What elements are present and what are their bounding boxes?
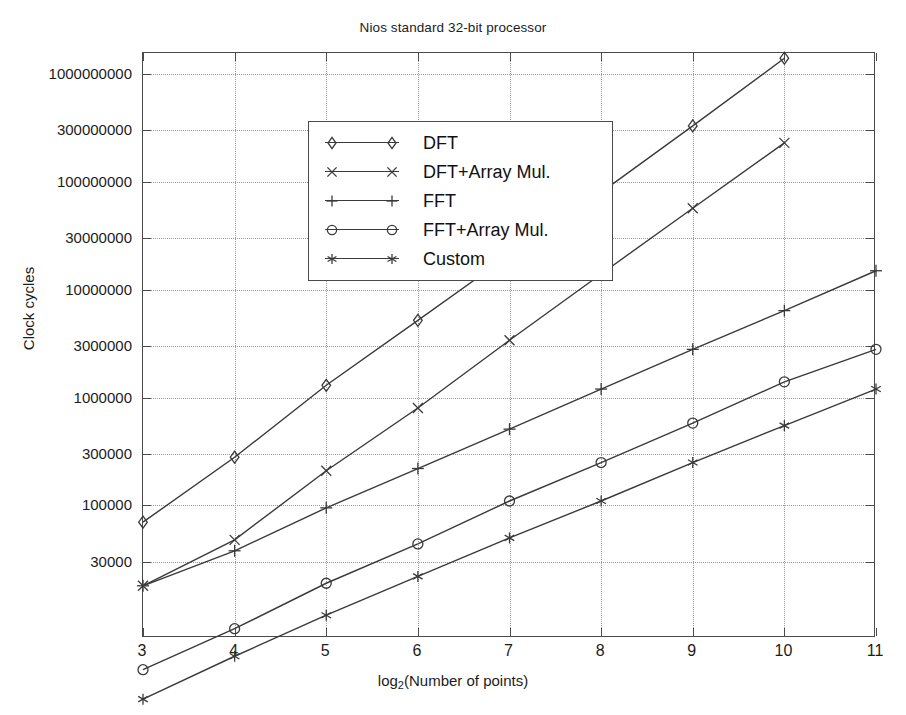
marker-plus	[504, 423, 516, 435]
x-axis-title-text: log2(Number of points)	[378, 672, 528, 689]
marker-asterisk	[596, 495, 606, 506]
plot-area: DFTDFT+Array Mul.FFTFFT+Array Mul.Custom	[142, 52, 875, 637]
legend-marker-x-icon	[323, 162, 401, 182]
legend-marker-diamond-icon	[323, 133, 401, 153]
y-axis-tick-label: 30000000	[0, 229, 132, 246]
legend-sample-line	[325, 229, 399, 230]
marker-asterisk	[688, 457, 698, 468]
legend-label: DFT+Array Mul.	[423, 162, 551, 182]
marker-plus	[595, 383, 607, 395]
legend-label: FFT	[423, 191, 456, 211]
legend-item-fft[interactable]: FFT	[309, 186, 612, 215]
marker-asterisk	[413, 571, 423, 582]
legend-item-fft-array-mul[interactable]: FFT+Array Mul.	[309, 215, 612, 244]
y-axis-tick-label: 1000000	[0, 388, 132, 405]
marker-plus	[412, 463, 424, 475]
legend-label: FFT+Array Mul.	[423, 220, 549, 240]
legend-box: DFTDFT+Array Mul.FFTFFT+Array Mul.Custom	[308, 121, 613, 281]
x-axis-tick-label: 5	[321, 642, 330, 660]
marker-x	[230, 535, 240, 545]
legend-marker-circle-icon	[323, 220, 401, 240]
marker-plus	[229, 545, 241, 557]
figure-canvas: Nios standard 32-bit processor Clock cyc…	[0, 0, 906, 715]
marker-plus	[778, 305, 790, 317]
legend-sample-line	[325, 171, 399, 172]
legend-item-dft[interactable]: DFT	[309, 128, 612, 157]
legend-label: DFT	[423, 133, 458, 153]
legend-sample-line	[325, 200, 399, 201]
y-axis-tick-label: 10000000	[0, 280, 132, 297]
legend-item-dft-array-mul[interactable]: DFT+Array Mul.	[309, 157, 612, 186]
y-axis-tick-label: 100000000	[0, 172, 132, 189]
series-line-fft-array-mul	[143, 349, 876, 669]
y-axis-tick-label: 300000000	[0, 121, 132, 138]
legend-marker-asterisk-icon	[323, 249, 401, 269]
legend-sample-line	[325, 142, 399, 143]
chart-title: Nios standard 32-bit processor	[0, 20, 906, 35]
x-axis-tick-label: 3	[138, 642, 147, 660]
marker-asterisk	[321, 610, 331, 621]
marker-asterisk	[780, 420, 790, 431]
marker-x	[413, 403, 423, 413]
x-axis-tick	[876, 628, 877, 636]
legend-label: Custom	[423, 249, 485, 269]
legend-item-custom[interactable]: Custom	[309, 244, 612, 273]
x-axis-title-subscript: 2	[398, 679, 404, 691]
legend-sample-line	[325, 258, 399, 259]
x-axis-tick-label: 10	[774, 642, 792, 660]
x-axis-tick-label: 7	[504, 642, 513, 660]
marker-x	[505, 335, 515, 345]
marker-x	[321, 466, 331, 476]
marker-x	[688, 203, 698, 213]
y-axis-tick-label: 30000	[0, 552, 132, 569]
x-axis-tick-top	[876, 53, 877, 61]
x-axis-tick-label: 11	[867, 642, 884, 660]
y-axis-tick-label: 1000000000	[0, 65, 132, 82]
x-axis-tick-label: 8	[596, 642, 605, 660]
y-axis-tick-label: 100000	[0, 496, 132, 513]
marker-asterisk	[505, 532, 515, 543]
x-axis-tick-label: 9	[687, 642, 696, 660]
marker-x	[779, 138, 789, 148]
x-axis-title: log2(Number of points)	[0, 672, 906, 691]
legend-marker-plus-icon	[323, 191, 401, 211]
marker-asterisk	[138, 694, 148, 705]
marker-plus	[687, 343, 699, 355]
marker-plus	[320, 502, 332, 514]
x-axis-tick-label: 6	[412, 642, 421, 660]
y-axis-tick-label: 3000000	[0, 337, 132, 354]
y-axis-tick-label: 300000	[0, 444, 132, 461]
